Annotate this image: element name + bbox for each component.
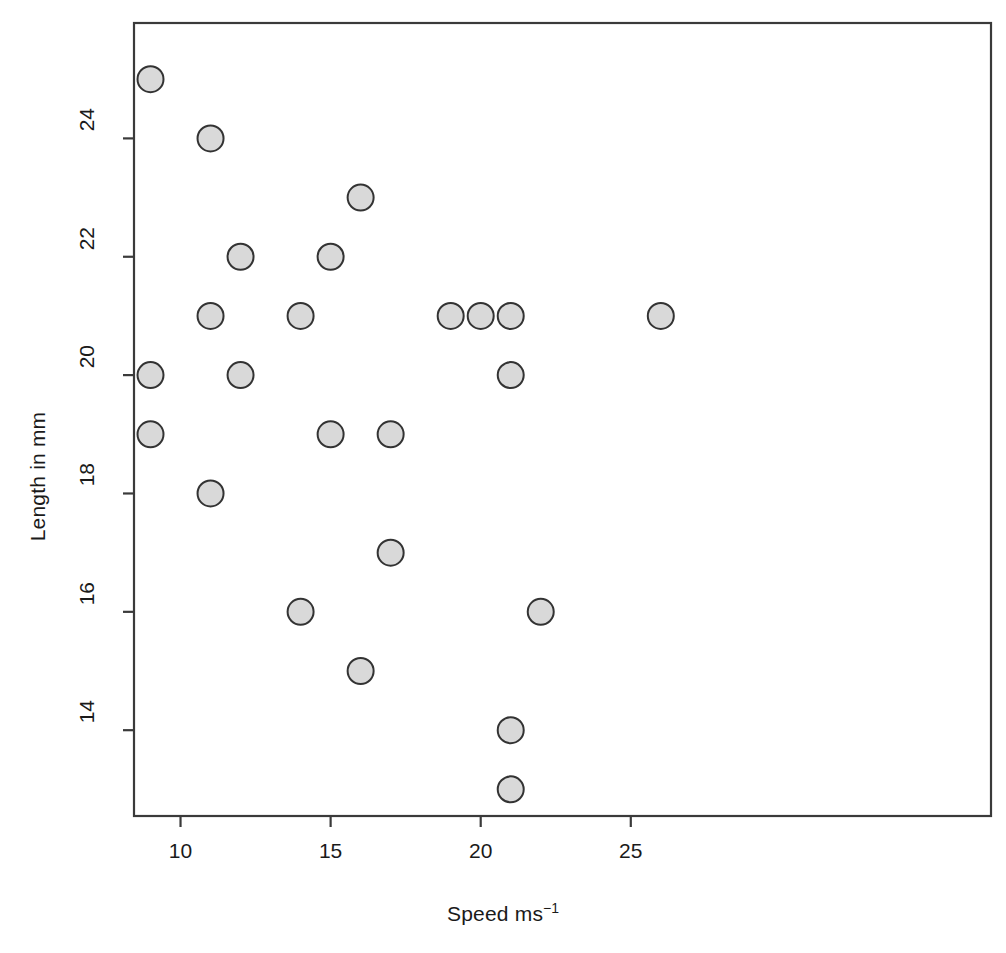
data-point-marker [648, 303, 674, 329]
data-point-marker [318, 244, 344, 270]
data-point-marker [378, 540, 404, 566]
x-axis-tick-label: 25 [619, 839, 642, 863]
data-point-marker [138, 421, 164, 447]
plot-canvas [0, 0, 1006, 953]
data-point-marker [228, 362, 254, 388]
y-axis-tick-label-wrap: 22 [57, 242, 117, 272]
y-axis-title: Length in mm [18, 0, 58, 953]
y-axis-tick-label: 14 [72, 700, 102, 760]
data-point-marker [348, 658, 374, 684]
y-axis-tick-label-wrap: 24 [57, 123, 117, 153]
x-axis-title-text: Speed ms [447, 902, 543, 925]
data-point-marker [498, 776, 524, 802]
x-axis-tick-label: 10 [169, 839, 192, 863]
data-point-marker [468, 303, 494, 329]
x-axis-title-exponent: −1 [543, 900, 559, 916]
axis-ticks [123, 138, 631, 827]
data-point-marker [498, 362, 524, 388]
y-axis-tick-label: 18 [72, 463, 102, 523]
x-axis-title: Speed ms−1 [0, 900, 1006, 926]
scatter-plot-figure: 10152025 141618202224 Speed ms−1 Length … [0, 0, 1006, 953]
y-axis-tick-label-wrap: 18 [57, 478, 117, 508]
y-axis-tick-label-wrap: 14 [57, 715, 117, 745]
data-point-marker [198, 303, 224, 329]
data-point-marker [438, 303, 464, 329]
x-axis-tick-label: 15 [319, 839, 342, 863]
data-point-marker [498, 303, 524, 329]
y-axis-tick-label: 16 [72, 582, 102, 642]
plot-frame [134, 23, 991, 816]
data-point-marker [288, 599, 314, 625]
data-point-marker [378, 421, 404, 447]
y-axis-tick-label: 22 [72, 227, 102, 287]
y-axis-tick-label-wrap: 16 [57, 597, 117, 627]
data-point-marker [198, 125, 224, 151]
plot-box [134, 23, 991, 816]
y-axis-tick-label: 24 [72, 108, 102, 168]
data-point-marker [228, 244, 254, 270]
data-point-marker [138, 362, 164, 388]
data-point-marker [198, 480, 224, 506]
y-axis-tick-label-wrap: 20 [57, 360, 117, 390]
data-point-marker [288, 303, 314, 329]
y-axis-title-text: Length in mm [26, 412, 49, 542]
data-point-marker [528, 599, 554, 625]
y-axis-tick-label: 20 [72, 345, 102, 405]
x-axis-tick-label: 20 [469, 839, 492, 863]
data-points-layer [138, 66, 674, 802]
data-point-marker [348, 185, 374, 211]
data-point-marker [318, 421, 344, 447]
data-point-marker [498, 717, 524, 743]
data-point-marker [138, 66, 164, 92]
